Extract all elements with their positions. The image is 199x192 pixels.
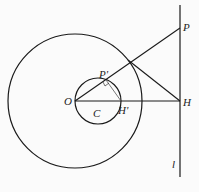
label-P: P bbox=[182, 21, 190, 33]
label-O: O bbox=[64, 95, 72, 107]
label-H-prime: H' bbox=[117, 104, 129, 116]
label-l: l bbox=[172, 158, 175, 170]
label-H: H bbox=[182, 96, 192, 108]
segment-tangent-H bbox=[128, 60, 180, 101]
label-P-prime: P' bbox=[98, 68, 109, 80]
inversion-diagram: P P' O C H' H l bbox=[0, 0, 199, 192]
label-C: C bbox=[93, 107, 101, 119]
segment-OP bbox=[75, 28, 180, 101]
